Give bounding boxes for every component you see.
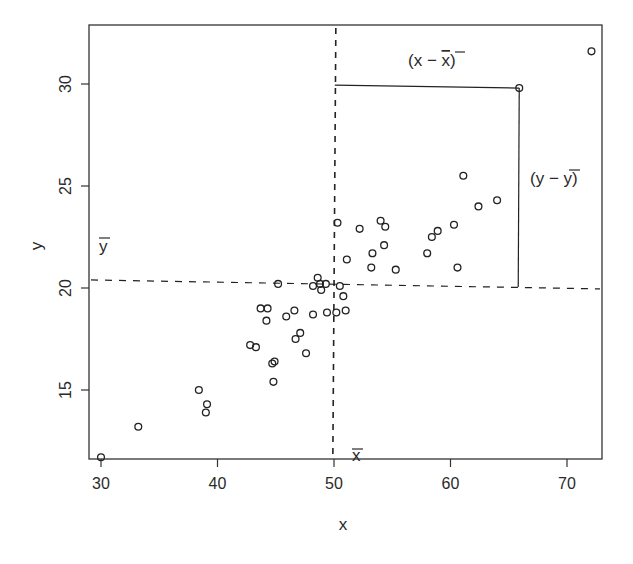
data-point [368, 264, 375, 271]
data-point [494, 197, 501, 204]
x-axis-title: x [339, 515, 348, 534]
x-mean-line [333, 28, 336, 459]
x-deviation-label: (x − x) [408, 51, 465, 70]
plot-frame [89, 25, 602, 459]
data-point [343, 256, 350, 263]
data-point [135, 423, 142, 430]
y-deviation-line [518, 88, 519, 287]
y-tick-label: 25 [57, 177, 74, 195]
data-point [381, 242, 388, 249]
data-point [310, 283, 317, 290]
data-point [377, 217, 384, 224]
x-tick-label: 50 [325, 475, 343, 492]
data-point [264, 305, 271, 312]
y-tick-label: 30 [57, 75, 74, 93]
data-point [195, 387, 202, 394]
data-point [428, 234, 435, 241]
x-tick-label: 40 [209, 475, 227, 492]
x-axis: 3040506070 [92, 459, 576, 492]
data-point [475, 203, 482, 210]
y-mean-line [91, 280, 600, 289]
data-point [275, 281, 282, 288]
data-point [263, 317, 270, 324]
data-point [297, 329, 304, 336]
data-point [336, 283, 343, 290]
data-point [303, 350, 310, 357]
data-point [340, 293, 347, 300]
y-deviation-label: (y − y) [530, 169, 580, 188]
data-point [392, 266, 399, 273]
data-point [369, 250, 376, 257]
data-point [283, 313, 290, 320]
plot-svg: 3040506070 15202530 x y (x − x) (y − y) … [0, 0, 633, 564]
svg-text:(x − x): (x − x) [408, 51, 456, 70]
data-point [270, 378, 277, 385]
y-axis-title: y [27, 241, 46, 250]
x-tick-label: 30 [92, 475, 110, 492]
data-point [324, 309, 331, 316]
data-point [204, 401, 211, 408]
data-point [588, 48, 595, 55]
data-point [292, 336, 299, 343]
data-point [257, 305, 264, 312]
data-point [356, 225, 363, 232]
data-point [424, 250, 431, 257]
data-point [434, 227, 441, 234]
y-tick-label: 20 [57, 279, 74, 297]
data-point [460, 172, 467, 179]
data-point [291, 307, 298, 314]
data-point [202, 409, 209, 416]
data-point [333, 309, 340, 316]
svg-text:(y − y): (y − y) [530, 169, 578, 188]
data-points [98, 48, 595, 461]
svg-text:y: y [99, 237, 108, 256]
y-axis: 15202530 [57, 75, 89, 399]
x-tick-label: 60 [442, 475, 460, 492]
scatter-chart: 3040506070 15202530 x y (x − x) (y − y) … [0, 0, 633, 564]
data-point [310, 311, 317, 318]
y-tick-label: 15 [57, 381, 74, 399]
data-point [451, 221, 458, 228]
data-point [382, 223, 389, 230]
data-point [454, 264, 461, 271]
x-deviation-line [335, 85, 519, 88]
x-mean-label: x [352, 446, 363, 465]
x-tick-label: 70 [558, 475, 576, 492]
data-point [342, 307, 349, 314]
y-mean-label: y [99, 237, 110, 256]
